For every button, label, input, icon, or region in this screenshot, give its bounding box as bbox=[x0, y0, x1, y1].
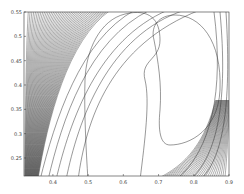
upper-left-contours bbox=[25, 10, 111, 180]
x-tick-label: 0.8 bbox=[190, 179, 198, 185]
x-tick-label: 0.4 bbox=[49, 179, 57, 185]
y-tick-label: 0.5 bbox=[14, 33, 22, 39]
y-tick-label: 0.4 bbox=[14, 82, 22, 88]
x-tick-label: 0.7 bbox=[155, 179, 163, 185]
contour-outer-4 bbox=[66, 10, 185, 180]
contour-left-lobe bbox=[85, 12, 160, 180]
plot-area bbox=[25, 10, 230, 180]
y-tick-label: 0.45 bbox=[11, 58, 22, 64]
x-axis: 0.40.50.60.70.80.9 bbox=[49, 174, 233, 185]
y-tick-label: 0.35 bbox=[11, 106, 22, 112]
y-tick-label: 0.3 bbox=[14, 131, 22, 137]
x-tick-label: 0.6 bbox=[119, 179, 127, 185]
y-tick-label: 0.55 bbox=[11, 9, 22, 15]
lower-right-contours bbox=[154, 100, 230, 180]
x-tick-label: 0.5 bbox=[84, 179, 92, 185]
contour-outer-3 bbox=[56, 10, 168, 180]
y-tick-label: 0.25 bbox=[11, 155, 22, 161]
x-tick-label: 0.9 bbox=[225, 179, 233, 185]
contour-chart: 0.40.50.60.70.80.9 0.250.30.350.40.450.5… bbox=[0, 0, 244, 194]
